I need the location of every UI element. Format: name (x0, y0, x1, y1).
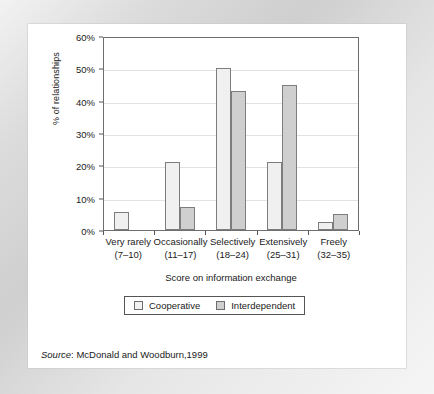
bar-interdependent (231, 91, 246, 230)
legend-entry: Cooperative (134, 300, 200, 311)
y-axis-tick-label: 60% (76, 32, 95, 43)
bar-group (165, 38, 195, 230)
legend-swatch-cooperative (134, 301, 143, 310)
bar-interdependent (333, 214, 348, 230)
legend-label: Cooperative (149, 300, 200, 311)
x-axis-category-label: Extensively(25–31) (258, 236, 309, 261)
chart-card: % of relationships 0%10%20%30%40%50%60% … (28, 24, 406, 368)
category-label-line: (25–31) (258, 249, 309, 262)
x-axis-category-label: Freely(32–35) (308, 236, 359, 261)
bar-group (318, 38, 348, 230)
category-label-line: Very rarely (103, 236, 154, 249)
source-note: Source: McDonald and Woodburn,1999 (41, 349, 208, 360)
legend-label: Interdependent (231, 300, 295, 311)
category-label-line: Extensively (258, 236, 309, 249)
x-axis-tick-mark (257, 231, 258, 235)
bar-group (114, 38, 144, 230)
y-axis-tick-labels: 0%10%20%30%40%50%60% (63, 37, 99, 231)
bar-cooperative (318, 222, 333, 230)
x-axis-category-labels: Very rarely(7–10)Occasionally(11–17)Sele… (103, 236, 359, 261)
x-axis-tick-mark (103, 231, 104, 235)
bar-group (216, 38, 246, 230)
x-axis-category-label: Very rarely(7–10) (103, 236, 154, 261)
x-axis-category-label: Selectively(18–24) (207, 236, 258, 261)
bar-cooperative (216, 68, 231, 230)
bar-cooperative (165, 162, 180, 230)
legend-swatch-interdependent (216, 301, 225, 310)
bar-interdependent (180, 207, 195, 230)
y-axis-tick-label: 20% (76, 161, 95, 172)
y-axis-title: % of relationships (51, 5, 61, 125)
x-axis-tick-mark (359, 231, 360, 235)
category-label-line: Selectively (207, 236, 258, 249)
source-text: McDonald and Woodburn,1999 (76, 349, 207, 360)
category-label-line: (32–35) (308, 249, 359, 262)
y-axis-tick-label: 30% (76, 129, 95, 140)
y-axis-tick-label: 40% (76, 96, 95, 107)
category-label-line: (18–24) (207, 249, 258, 262)
bar-interdependent (282, 85, 297, 231)
plot-area (103, 37, 359, 231)
category-label-line: Occasionally (154, 236, 208, 249)
chart-legend: CooperativeInterdependent (124, 296, 305, 315)
x-axis-title: Score on information exchange (103, 272, 359, 283)
x-axis-tick-mark (205, 231, 206, 235)
plot-area-wrapper: % of relationships 0%10%20%30%40%50%60% … (55, 29, 365, 309)
y-axis-tick-label: 0% (81, 226, 95, 237)
legend-entry: Interdependent (216, 300, 295, 311)
figure-frame: % of relationships 0%10%20%30%40%50%60% … (0, 0, 434, 394)
bar-cooperative (114, 212, 129, 230)
category-label-line: Freely (308, 236, 359, 249)
x-axis-tick-mark (308, 231, 309, 235)
x-axis-tick-mark (154, 231, 155, 235)
bar-cooperative (267, 162, 282, 230)
bar-groups (104, 38, 358, 230)
source-label: Source (41, 349, 71, 360)
category-label-line: (11–17) (154, 249, 208, 262)
bar-group (267, 38, 297, 230)
y-axis-tick-label: 10% (76, 193, 95, 204)
category-label-line: (7–10) (103, 249, 154, 262)
x-axis-category-label: Occasionally(11–17) (154, 236, 208, 261)
y-axis-tick-label: 50% (76, 64, 95, 75)
